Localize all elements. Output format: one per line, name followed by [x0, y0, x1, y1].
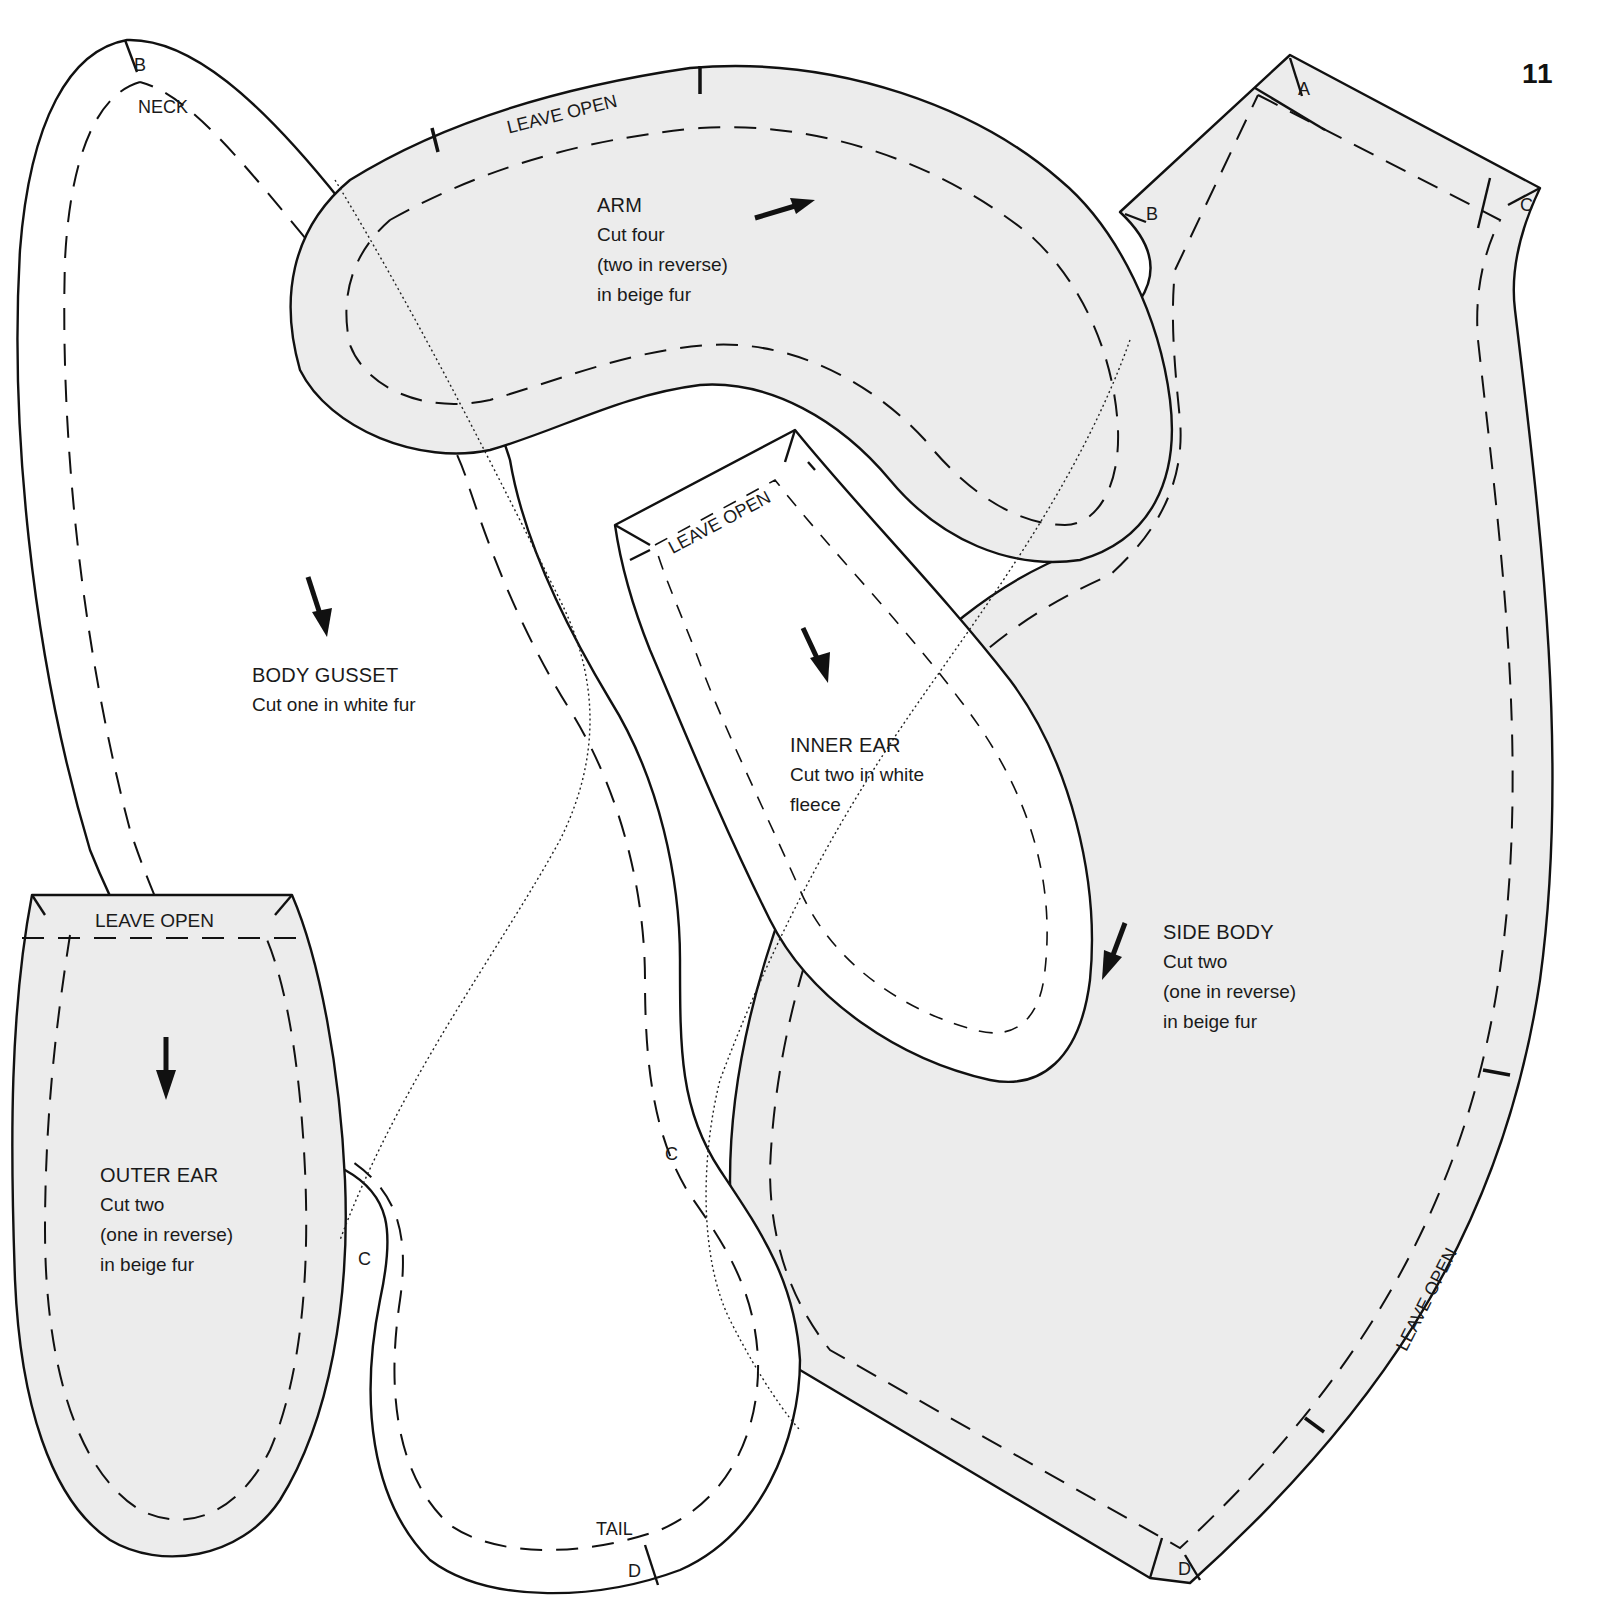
mark-c-gusset: C: [665, 1145, 678, 1163]
body-gusset-title: BODY GUSSET: [252, 660, 416, 690]
outer-ear-label: OUTER EAR Cut two (one in reverse) in be…: [100, 1160, 233, 1280]
tail-label: TAIL: [596, 1520, 633, 1538]
mark-c-outer-ear: C: [358, 1250, 371, 1268]
outer-ear-title: OUTER EAR: [100, 1160, 233, 1190]
neck-label: NECK: [138, 98, 188, 116]
inner-ear-instruction: fleece: [790, 790, 924, 820]
mark-c-side-body: C: [1520, 196, 1533, 214]
mark-b-gusset: B: [134, 56, 146, 74]
arm-label: ARM Cut four (two in reverse) in beige f…: [597, 190, 728, 310]
body-gusset-instruction: Cut one in white fur: [252, 690, 416, 720]
mark-d-side-body: D: [1178, 1560, 1191, 1578]
outer-ear-instruction: (one in reverse): [100, 1220, 233, 1250]
outer-ear-leave-open-label: LEAVE OPEN: [95, 912, 214, 930]
body-gusset-label: BODY GUSSET Cut one in white fur: [252, 660, 416, 720]
side-body-instruction: (one in reverse): [1163, 977, 1296, 1007]
arm-title: ARM: [597, 190, 728, 220]
side-body-title: SIDE BODY: [1163, 917, 1296, 947]
arm-instruction: Cut four: [597, 220, 728, 250]
side-body-label: SIDE BODY Cut two (one in reverse) in be…: [1163, 917, 1296, 1037]
arm-instruction: (two in reverse): [597, 250, 728, 280]
inner-ear-title: INNER EAR: [790, 730, 924, 760]
outer-ear-instruction: in beige fur: [100, 1250, 233, 1280]
side-body-instruction: in beige fur: [1163, 1007, 1296, 1037]
side-body-instruction: Cut two: [1163, 947, 1296, 977]
outer-ear-instruction: Cut two: [100, 1190, 233, 1220]
mark-a-side-body: A: [1298, 80, 1310, 98]
inner-ear-label: INNER EAR Cut two in white fleece: [790, 730, 924, 820]
page-number: 11: [1522, 58, 1554, 90]
arm-instruction: in beige fur: [597, 280, 728, 310]
inner-ear-instruction: Cut two in white: [790, 760, 924, 790]
mark-b-side-body: B: [1146, 205, 1158, 223]
mark-d-gusset: D: [628, 1562, 641, 1580]
